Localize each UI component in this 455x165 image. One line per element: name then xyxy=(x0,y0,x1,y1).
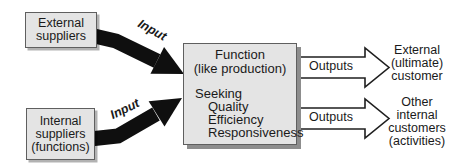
other-internal-customers-label: Other internal customers (activities) xyxy=(380,96,454,148)
input-arrow-top-shaft-icon xyxy=(90,35,157,61)
outputs-label-bottom: Outputs xyxy=(300,111,362,124)
internal-suppliers-box: Internal suppliers (functions) xyxy=(26,108,95,160)
seeking-item-responsiveness: Responsiveness xyxy=(195,126,296,139)
outputs-label-top: Outputs xyxy=(300,60,362,73)
internal-suppliers-label: Internal suppliers (functions) xyxy=(31,115,89,154)
input-arrow-bottom-shaft-icon xyxy=(90,114,156,139)
external-suppliers-box: External suppliers xyxy=(25,12,97,48)
function-box: Function (like production) Seeking Quali… xyxy=(183,43,297,145)
external-customer-label: External (ultimate) customer xyxy=(380,44,454,83)
function-box-title: Function (like production) xyxy=(184,44,296,76)
process-flow-diagram: External suppliers Internal suppliers (f… xyxy=(0,0,455,165)
function-box-seeking-list: Seeking Quality Efficiency Responsivenes… xyxy=(184,87,296,139)
external-suppliers-label: External suppliers xyxy=(36,17,86,43)
